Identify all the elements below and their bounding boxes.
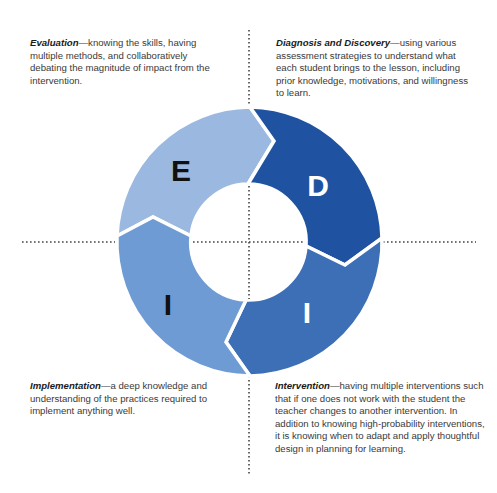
term-diagnosis: Diagnosis and Discovery xyxy=(276,37,390,48)
segment-evaluation xyxy=(117,107,274,236)
term-evaluation: Evaluation xyxy=(30,37,79,48)
term-intervention: Intervention xyxy=(275,380,330,391)
letter-d: D xyxy=(307,169,329,202)
description-evaluation: Evaluation—knowing the skills, having mu… xyxy=(30,37,220,87)
letter-i-intervention: I xyxy=(303,296,311,329)
text-intervention: —having multiple interventions such that… xyxy=(275,380,485,454)
term-implementation: Implementation xyxy=(30,380,101,391)
description-intervention: Intervention—having multiple interventio… xyxy=(275,380,490,456)
letter-i-implementation: I xyxy=(164,288,172,321)
letter-e: E xyxy=(171,154,191,187)
description-implementation: Implementation—a deep knowledge and unde… xyxy=(30,380,230,418)
description-diagnosis: Diagnosis and Discovery—using various as… xyxy=(276,37,476,100)
segment-implementation xyxy=(117,217,250,376)
